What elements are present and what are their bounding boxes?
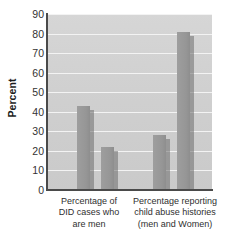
y-tick-label-80: 80 bbox=[18, 29, 44, 39]
bar-child-abuse-men bbox=[153, 135, 166, 190]
y-axis-line bbox=[46, 13, 48, 191]
bar-did-cases-other bbox=[101, 147, 114, 190]
category-label-line: are men bbox=[47, 219, 131, 230]
y-tick-label-70: 70 bbox=[18, 48, 44, 58]
y-tick-label-40: 40 bbox=[18, 107, 44, 117]
category-label-line: child abuse histories bbox=[129, 207, 221, 218]
y-tick-label-50: 50 bbox=[18, 87, 44, 97]
category-label-line: Percentage of bbox=[47, 196, 131, 207]
y-axis-tick-labels: 9080706050403020100 bbox=[18, 14, 44, 190]
bars-layer bbox=[47, 14, 212, 190]
y-tick-label-60: 60 bbox=[18, 68, 44, 78]
category-label-line: (men and Women) bbox=[129, 219, 221, 230]
category-label-did-cases-men: Percentage ofDID cases whoare men bbox=[47, 196, 131, 230]
category-label-line: Percentage reporting bbox=[129, 196, 221, 207]
y-tick-label-30: 30 bbox=[18, 126, 44, 136]
y-axis-title: Percent bbox=[6, 68, 18, 128]
y-tick-label-10: 10 bbox=[18, 165, 44, 175]
x-axis-line bbox=[46, 189, 213, 191]
category-label-child-abuse-histories: Percentage reportingchild abuse historie… bbox=[129, 196, 221, 230]
plot-area bbox=[47, 14, 212, 190]
y-tick-label-20: 20 bbox=[18, 146, 44, 156]
x-axis-category-labels: Percentage ofDID cases whoare men Percen… bbox=[47, 196, 219, 250]
bar-child-abuse-women bbox=[177, 32, 190, 190]
bar-did-cases-men bbox=[77, 106, 90, 190]
bar-chart-figure: Percent 9080706050403020100 Percentage o… bbox=[0, 0, 227, 252]
y-tick-label-90: 90 bbox=[18, 9, 44, 19]
category-label-line: DID cases who bbox=[47, 207, 131, 218]
y-tick-label-0: 0 bbox=[18, 185, 44, 195]
